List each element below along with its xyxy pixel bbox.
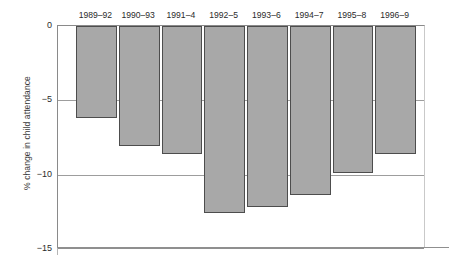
category-label: 1996–9 xyxy=(374,9,415,21)
bar[interactable] xyxy=(290,26,331,195)
y-axis-tick-label: −10 xyxy=(26,169,52,179)
category-labels: 1989–921990–931991–41992–51993–61994–719… xyxy=(57,9,425,23)
bar-series xyxy=(58,26,424,248)
category-label: 1995–8 xyxy=(332,9,373,21)
category-label: 1989–92 xyxy=(75,9,116,21)
category-label: 1994–7 xyxy=(289,9,330,21)
bar-chart-figure: % change in child attendance 0−5−10−15 1… xyxy=(0,0,449,266)
bar[interactable] xyxy=(375,26,416,154)
bar-slot xyxy=(76,26,117,248)
bar-slot xyxy=(290,26,331,248)
y-axis-tick-label: −15 xyxy=(26,243,52,253)
bar-slot xyxy=(247,26,288,248)
bar[interactable] xyxy=(119,26,160,146)
bar[interactable] xyxy=(76,26,117,118)
y-axis-tick-label: 0 xyxy=(26,20,52,30)
category-label: 1990–93 xyxy=(118,9,159,21)
category-label: 1993–6 xyxy=(246,9,287,21)
bar-slot xyxy=(375,26,416,248)
bar-slot xyxy=(204,26,245,248)
y-axis-tick-labels: 0−5−10−15 xyxy=(26,0,52,266)
x-axis-baseline xyxy=(57,247,449,248)
plot-area xyxy=(57,25,425,248)
bar-slot xyxy=(119,26,160,248)
y-axis-tick-label: −5 xyxy=(26,94,52,104)
category-label: 1992–5 xyxy=(203,9,244,21)
y-axis-stub xyxy=(57,248,58,255)
bar-slot xyxy=(162,26,203,248)
bar[interactable] xyxy=(162,26,203,154)
bar-slot xyxy=(333,26,374,248)
bar[interactable] xyxy=(204,26,245,213)
bar[interactable] xyxy=(247,26,288,207)
category-label: 1991–4 xyxy=(161,9,202,21)
bar[interactable] xyxy=(333,26,374,173)
